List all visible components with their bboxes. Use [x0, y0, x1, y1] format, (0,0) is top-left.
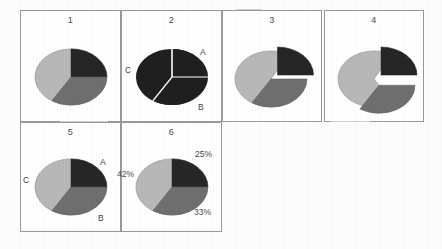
panel-6: 6 25% 33% 42%: [121, 122, 222, 232]
slice-a: [71, 49, 107, 77]
figure-sheet: 1 2: [0, 0, 442, 249]
pie-chart-3: [223, 11, 323, 123]
panel-2-pie: [122, 11, 221, 121]
label-c: C: [125, 65, 131, 75]
label-b: B: [198, 102, 204, 112]
percent-label-a: 25%: [195, 149, 212, 159]
panel-5-pie: [21, 123, 120, 231]
label-a: A: [200, 47, 206, 57]
label-a: A: [100, 157, 106, 167]
pie-chart-1: [21, 11, 122, 123]
percent-label-b: 33%: [194, 207, 211, 217]
slice-a-exploded: [278, 47, 314, 75]
label-b: B: [98, 213, 104, 223]
pie-chart-4: [325, 11, 425, 123]
panel-3: 3: [222, 10, 322, 122]
panel-4-pie: [325, 11, 423, 121]
panel-5: 5 A B C: [20, 122, 121, 232]
pie-chart-5: [21, 123, 122, 233]
percent-label-c: 42%: [117, 169, 134, 179]
panel-2: 2 A B C: [121, 10, 222, 122]
panel-4: 4: [324, 10, 424, 122]
label-c: C: [23, 175, 29, 185]
slice-a: [172, 159, 208, 187]
slice-a-exploded: [381, 47, 417, 75]
panel-3-pie: [223, 11, 321, 121]
panel-1-pie: [21, 11, 120, 121]
pie-chart-2: [122, 11, 223, 123]
panel-1: 1: [20, 10, 121, 122]
